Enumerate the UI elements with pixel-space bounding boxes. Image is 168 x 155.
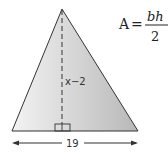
- triangle-diagram: x−2 19 A = bh 2: [0, 0, 168, 155]
- formula-equals: =: [131, 16, 143, 32]
- height-label: x−2: [65, 76, 86, 87]
- formula-lhs: A: [118, 16, 130, 32]
- base-label: 19: [66, 138, 79, 149]
- arrowhead-left-icon: [12, 141, 19, 146]
- arrowhead-right-icon: [131, 141, 138, 146]
- formula-denominator: 2: [151, 29, 159, 44]
- formula-numerator: bh: [147, 9, 164, 24]
